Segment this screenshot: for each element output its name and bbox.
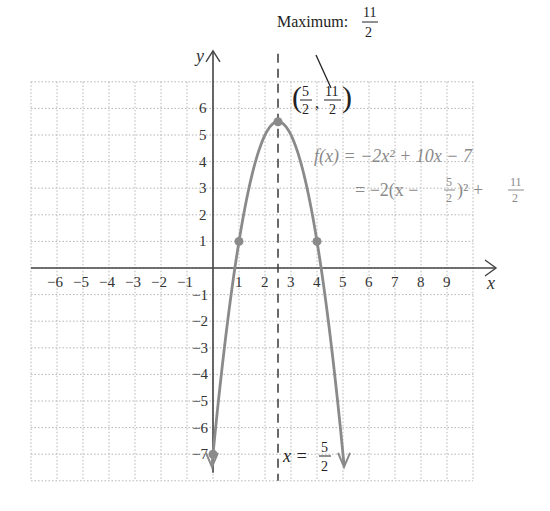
maximum-denominator: 2 [365, 25, 372, 40]
svg-text:5: 5 [321, 440, 328, 455]
svg-text:−3: −3 [192, 340, 208, 356]
svg-text:5: 5 [199, 127, 207, 143]
formula-line-1: f(x) = −2x² + 10x − 7 [314, 146, 473, 167]
svg-text:5: 5 [302, 84, 309, 99]
svg-text:2: 2 [302, 102, 309, 117]
data-point [274, 117, 283, 126]
x-axis-label: x [486, 273, 495, 293]
svg-text:6: 6 [365, 274, 373, 290]
svg-text:2: 2 [199, 207, 207, 223]
svg-text:3: 3 [287, 274, 295, 290]
svg-text:−4: −4 [99, 274, 115, 290]
svg-text:2: 2 [261, 274, 269, 290]
svg-text:,: , [315, 94, 319, 111]
data-point [209, 450, 218, 459]
svg-text:2: 2 [512, 191, 518, 205]
svg-text:−6: −6 [192, 420, 208, 436]
svg-text:= −2(x −: = −2(x − [355, 180, 418, 201]
svg-text:2: 2 [329, 102, 336, 117]
svg-text:−2: −2 [192, 313, 208, 329]
data-point [235, 237, 244, 246]
svg-text:): ) [342, 80, 352, 114]
svg-text:−5: −5 [73, 274, 89, 290]
formula-line-2: = −2(x − 5 2 )² + 11 2 [355, 175, 524, 205]
svg-text:1: 1 [199, 233, 207, 249]
svg-text:−6: −6 [47, 274, 63, 290]
parabola-curve [212, 122, 344, 465]
symmetry-label: x = 5 2 [282, 440, 331, 474]
svg-text:x =: x = [282, 446, 308, 466]
svg-text:−5: −5 [192, 393, 208, 409]
svg-text:4: 4 [199, 154, 207, 170]
svg-text:−4: −4 [192, 366, 208, 382]
svg-text:1: 1 [235, 274, 243, 290]
svg-text:2: 2 [446, 191, 452, 205]
svg-text:6: 6 [199, 100, 207, 116]
svg-text:5: 5 [339, 274, 347, 290]
svg-text:−2: −2 [151, 274, 167, 290]
parabola-graph: −6−5−4−3−2−1123456789654321−1−2−3−4−5−6−… [0, 0, 550, 511]
svg-text:4: 4 [313, 274, 321, 290]
svg-text:−1: −1 [177, 274, 193, 290]
svg-text:7: 7 [391, 274, 399, 290]
maximum-numerator: 11 [363, 5, 376, 20]
svg-text:9: 9 [443, 274, 451, 290]
maximum-label: Maximum: [277, 13, 348, 30]
svg-text:)² +: )² + [457, 180, 483, 201]
svg-text:11: 11 [510, 175, 522, 189]
axes [31, 51, 496, 473]
vertex-label: ( 5 2 , 11 2 ) [292, 80, 352, 117]
svg-text:8: 8 [417, 274, 425, 290]
svg-text:5: 5 [446, 175, 452, 189]
y-axis-label: y [194, 46, 204, 66]
svg-text:2: 2 [321, 459, 328, 474]
svg-text:(: ( [292, 80, 302, 114]
svg-text:11: 11 [325, 84, 338, 99]
svg-text:−3: −3 [125, 274, 141, 290]
svg-text:3: 3 [199, 180, 207, 196]
grid [31, 82, 473, 481]
svg-text:−1: −1 [192, 287, 208, 303]
data-point [313, 237, 322, 246]
